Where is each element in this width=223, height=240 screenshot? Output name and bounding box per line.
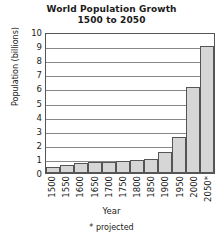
bar-1800 [130, 160, 144, 173]
bar-slot [116, 34, 130, 173]
y-axis-tick-1: 1 [16, 156, 42, 164]
bar-slot [200, 34, 214, 173]
y-axis-tick-6: 6 [16, 85, 42, 93]
bar-1850 [144, 159, 158, 173]
bar-series [46, 34, 214, 173]
y-axis-tick-10: 10 [16, 29, 42, 37]
bar-1950 [172, 137, 186, 173]
bar-slot [144, 34, 158, 173]
x-tick-slot: 1850 [144, 176, 158, 206]
bar-chart-figure: World Population Growth 1500 to 2050 Pop… [0, 0, 223, 240]
x-tick-slot: 2050* [201, 176, 215, 206]
x-axis-tick-1800: 1800 [132, 176, 142, 198]
x-tick-slot: 2000 [187, 176, 201, 206]
y-axis-label: Population (billions) [11, 7, 20, 127]
x-axis-tick-2050*: 2050* [203, 176, 213, 202]
bar-2050* [200, 46, 214, 173]
bar-1700 [102, 162, 116, 173]
x-axis-tick-1950: 1950 [175, 176, 185, 198]
y-axis-tick-0: 0 [16, 170, 42, 178]
bar-2000 [186, 87, 200, 173]
x-axis-tick-1550: 1550 [61, 176, 71, 198]
chart-title-line2: 1500 to 2050 [0, 15, 223, 26]
bar-1500 [46, 167, 60, 173]
y-axis-tick-8: 8 [16, 57, 42, 65]
x-tick-slot: 1950 [173, 176, 187, 206]
x-axis-tick-2000: 2000 [189, 176, 199, 198]
chart-title-line1: World Population Growth [46, 4, 176, 14]
bar-1900 [158, 152, 172, 173]
bar-1600 [74, 163, 88, 173]
x-axis-tick-1900: 1900 [160, 176, 170, 198]
x-tick-slot: 1800 [130, 176, 144, 206]
y-axis-tick-5: 5 [16, 100, 42, 108]
y-axis-tick-2: 2 [16, 142, 42, 150]
bar-slot [130, 34, 144, 173]
bar-slot [60, 34, 74, 173]
x-tick-slot: 1550 [59, 176, 73, 206]
bar-slot [74, 34, 88, 173]
x-tick-slot: 1700 [102, 176, 116, 206]
x-axis-tick-1700: 1700 [104, 176, 114, 198]
x-tick-slot: 1500 [45, 176, 59, 206]
bar-1750 [116, 161, 130, 173]
bar-1650 [88, 162, 102, 173]
x-tick-slot: 1650 [88, 176, 102, 206]
bar-slot [88, 34, 102, 173]
bar-1550 [60, 165, 74, 173]
x-tick-slot: 1600 [73, 176, 87, 206]
plot-area [45, 33, 215, 174]
y-axis-tick-4: 4 [16, 114, 42, 122]
x-axis-tick-1600: 1600 [75, 176, 85, 198]
x-axis-tick-1650: 1650 [90, 176, 100, 198]
x-axis-tick-labels: 1500155016001650170017501800185019001950… [45, 176, 215, 206]
x-tick-slot: 1750 [116, 176, 130, 206]
x-axis-tick-1750: 1750 [118, 176, 128, 198]
x-axis-tick-1850: 1850 [146, 176, 156, 198]
bar-slot [46, 34, 60, 173]
chart-footnote: * projected [0, 223, 223, 232]
bar-slot [102, 34, 116, 173]
x-axis-tick-1500: 1500 [47, 176, 57, 198]
bar-slot [172, 34, 186, 173]
x-axis-label: Year [0, 206, 223, 216]
y-axis-tick-9: 9 [16, 43, 42, 51]
y-axis-tick-7: 7 [16, 71, 42, 79]
chart-title: World Population Growth 1500 to 2050 [0, 4, 223, 26]
y-axis-tick-3: 3 [16, 128, 42, 136]
bar-slot [186, 34, 200, 173]
x-tick-slot: 1900 [158, 176, 172, 206]
bar-slot [158, 34, 172, 173]
